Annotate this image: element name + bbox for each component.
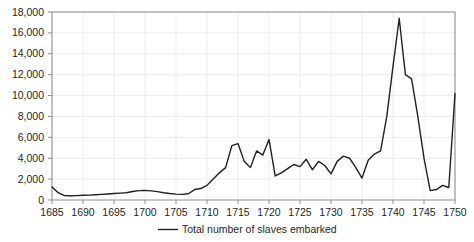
x-axis-tick-label: 1700 bbox=[133, 206, 157, 218]
plot-area-frame bbox=[52, 12, 455, 200]
chart-container: 02,0004,0006,0008,00010,00012,00014,0001… bbox=[0, 0, 474, 242]
y-axis-tick-label: 0 bbox=[38, 194, 44, 206]
y-axis-tick-label: 12,000 bbox=[12, 68, 44, 80]
line-chart: 02,0004,0006,0008,00010,00012,00014,0001… bbox=[0, 0, 474, 242]
y-axis-ticks bbox=[48, 12, 52, 200]
x-axis-tick-label: 1705 bbox=[164, 206, 188, 218]
x-axis-labels: 1685169016951700170517101715172017251730… bbox=[40, 206, 467, 218]
legend-label: Total number of slaves embarked bbox=[182, 223, 337, 235]
y-axis-labels: 02,0004,0006,0008,00010,00012,00014,0001… bbox=[12, 6, 44, 206]
x-axis-tick-label: 1745 bbox=[412, 206, 436, 218]
x-axis-tick-label: 1685 bbox=[40, 206, 64, 218]
y-axis-tick-label: 14,000 bbox=[12, 47, 44, 59]
y-axis-tick-label: 10,000 bbox=[12, 89, 44, 101]
x-axis-tick-label: 1730 bbox=[319, 206, 343, 218]
x-axis-tick-label: 1690 bbox=[71, 206, 95, 218]
y-axis-tick-label: 16,000 bbox=[12, 26, 44, 38]
x-axis-ticks bbox=[52, 200, 455, 204]
x-axis-tick-label: 1735 bbox=[350, 206, 374, 218]
x-axis-tick-label: 1695 bbox=[102, 206, 126, 218]
y-axis-tick-label: 8,000 bbox=[18, 110, 44, 122]
x-axis-tick-label: 1720 bbox=[257, 206, 281, 218]
y-axis-tick-label: 6,000 bbox=[18, 131, 44, 143]
gridlines-group bbox=[52, 12, 455, 200]
x-axis-tick-label: 1750 bbox=[443, 206, 467, 218]
x-axis-tick-label: 1715 bbox=[226, 206, 250, 218]
x-axis-tick-label: 1710 bbox=[195, 206, 219, 218]
x-axis-tick-label: 1725 bbox=[288, 206, 312, 218]
x-axis-tick-label: 1740 bbox=[381, 206, 405, 218]
data-series-line bbox=[52, 18, 455, 196]
y-axis-tick-label: 18,000 bbox=[12, 6, 44, 18]
y-axis-tick-label: 2,000 bbox=[18, 173, 44, 185]
y-axis-tick-label: 4,000 bbox=[18, 152, 44, 164]
